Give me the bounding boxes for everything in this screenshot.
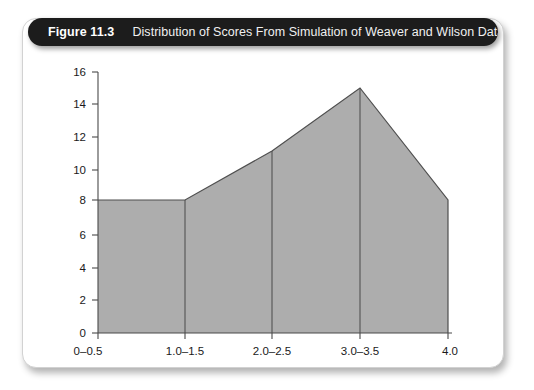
figure-number-label: Figure 11.3 [48, 25, 114, 39]
figure-caption-text: Distribution of Scores From Simulation o… [132, 25, 498, 39]
figure-header-bar: Figure 11.3 Distribution of Scores From … [28, 18, 498, 46]
figure-card [22, 18, 504, 368]
